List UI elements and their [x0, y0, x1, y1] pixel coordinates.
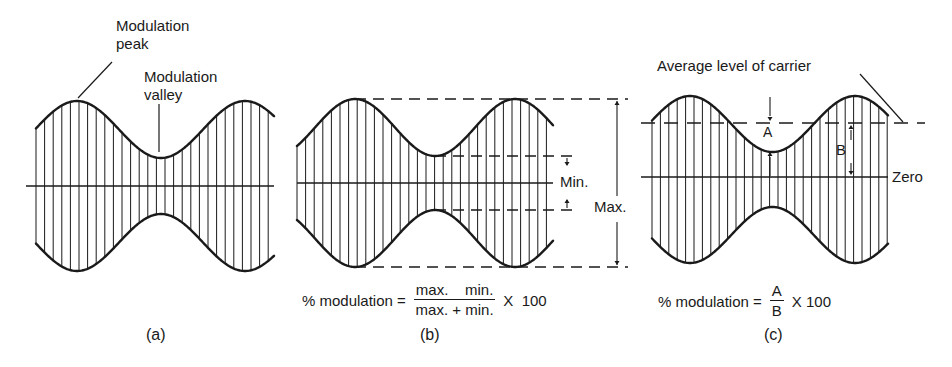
formula-b-numerator: max. min. [414, 282, 496, 300]
zero-label: Zero [892, 168, 923, 186]
average-level-label: Average level of carrier [657, 57, 811, 75]
formula-b-lhs: % modulation = [302, 292, 406, 309]
formula-c-denominator: B [772, 301, 782, 319]
formula-b-denominator: max. + min. [416, 300, 494, 318]
caption-b: (b) [420, 326, 440, 344]
caption-c: (c) [764, 326, 783, 344]
formula-c-lhs: % modulation = [658, 293, 762, 310]
formula-b: % modulation = max. min. max. + min. X 1… [302, 282, 547, 318]
formula-c-numerator: A [770, 283, 784, 301]
formula-c: % modulation = A B X 100 [658, 283, 831, 319]
modulation-peak-label: Modulation peak [116, 17, 189, 53]
min-label: Min. [560, 173, 588, 191]
modulation-valley-label: Modulation valley [144, 68, 217, 104]
formula-c-multiplier: X 100 [792, 293, 831, 310]
b-label: B [836, 141, 846, 159]
formula-b-multiplier: X 100 [503, 292, 546, 309]
panel-c-waveform [641, 74, 925, 263]
max-label: Max. [594, 196, 627, 218]
caption-a: (a) [146, 326, 166, 344]
a-label: A [763, 123, 772, 141]
formula-c-fraction: A B [770, 283, 784, 319]
formula-b-fraction: max. min. max. + min. [414, 282, 496, 318]
